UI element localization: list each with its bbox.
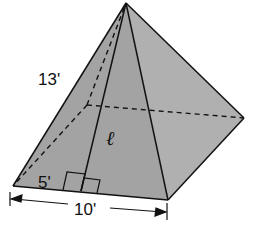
slant-height-label: ℓ [106,127,115,149]
pyramid-diagram: 13' ℓ 5' 10' [0,0,254,226]
base-edge-label: 10' [74,200,96,219]
lateral-edge-label: 13' [38,70,60,89]
half-base-label: 5' [38,173,51,192]
